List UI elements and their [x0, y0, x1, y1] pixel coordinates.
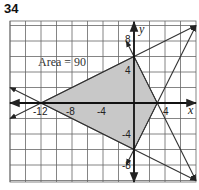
y-tick-label: -8 — [122, 160, 131, 171]
x-tick-label: -4 — [97, 106, 106, 117]
x-tick-label: 4 — [163, 106, 169, 117]
x-tick-label: -12 — [33, 106, 48, 117]
x-axis-label: x — [187, 103, 194, 117]
y-tick-label: 8 — [125, 34, 131, 45]
coordinate-plane: x y Area = 90 -12 -8 -4 4 8 4 -4 -8 — [0, 0, 199, 190]
x-tick-label: -8 — [66, 106, 75, 117]
area-annotation: Area = 90 — [38, 55, 86, 69]
y-tick-label: 4 — [125, 65, 131, 76]
y-tick-label: -4 — [122, 129, 131, 140]
y-axis-label: y — [138, 22, 145, 36]
